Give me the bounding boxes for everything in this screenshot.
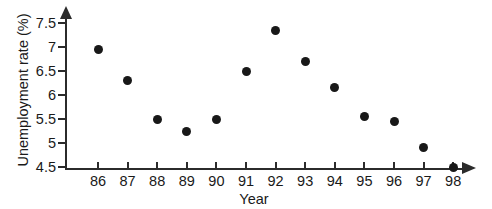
data-point [301, 57, 310, 66]
data-point [212, 115, 221, 124]
data-point [271, 26, 280, 35]
data-point [419, 143, 428, 152]
data-point [390, 117, 399, 126]
data-point [449, 163, 458, 172]
data-point [330, 83, 339, 92]
data-point [123, 76, 132, 85]
data-point [242, 67, 251, 76]
plot-area [0, 0, 492, 209]
data-point [153, 115, 162, 124]
data-point [360, 112, 369, 121]
unemployment-rate-scatter-chart: 7.576.565.554.5 Unemployment rate (%) 86… [0, 0, 492, 209]
data-point [182, 127, 191, 136]
data-point [94, 45, 103, 54]
